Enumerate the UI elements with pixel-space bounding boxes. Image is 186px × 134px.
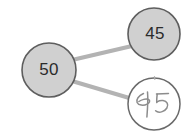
edge-group <box>72 46 136 100</box>
node-root-label: 50 <box>39 60 58 79</box>
node-child-upper-label: 45 <box>145 24 164 43</box>
node-root[interactable]: 50 <box>22 43 76 97</box>
node-link-diagram: 50 45 <box>0 0 186 134</box>
node-child-lower[interactable] <box>128 77 180 131</box>
edge-root-to-child-lower <box>72 81 136 100</box>
node-child-lower-circle[interactable] <box>128 78 180 130</box>
diagram-canvas: 50 45 <box>0 0 186 134</box>
node-child-upper[interactable]: 45 <box>128 8 180 60</box>
edge-root-to-child-upper <box>72 46 132 60</box>
